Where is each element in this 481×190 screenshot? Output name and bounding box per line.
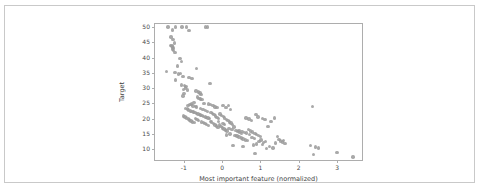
y-tick-mark bbox=[152, 103, 155, 104]
data-point bbox=[335, 151, 338, 154]
x-tick-label: -1 bbox=[181, 165, 187, 171]
y-tick-mark bbox=[152, 149, 155, 150]
y-tick-mark bbox=[152, 73, 155, 74]
y-tick-mark bbox=[152, 134, 155, 135]
y-tick-label: 45 bbox=[142, 39, 150, 45]
data-point bbox=[223, 123, 226, 126]
data-point bbox=[208, 82, 211, 85]
data-point bbox=[174, 25, 177, 28]
data-point bbox=[174, 78, 177, 81]
data-point bbox=[207, 124, 210, 127]
data-point bbox=[228, 132, 231, 135]
data-point bbox=[255, 142, 258, 145]
data-point bbox=[177, 72, 180, 75]
data-point bbox=[173, 51, 176, 54]
data-point bbox=[253, 137, 256, 140]
y-tick-label: 10 bbox=[142, 146, 150, 152]
data-point bbox=[190, 77, 193, 80]
figure-frame: 101520253035404550 -10123 Most important… bbox=[4, 5, 475, 183]
data-point bbox=[182, 88, 185, 91]
y-tick-label: 50 bbox=[142, 24, 150, 30]
data-point bbox=[206, 25, 209, 28]
y-tick-mark bbox=[152, 119, 155, 120]
data-point bbox=[166, 25, 169, 28]
data-point bbox=[277, 138, 280, 141]
data-point bbox=[180, 60, 183, 63]
data-point bbox=[171, 28, 174, 31]
x-tick-mark bbox=[299, 160, 300, 163]
data-point bbox=[253, 152, 256, 155]
scatter-plot-axes: 101520253035404550 -10123 bbox=[154, 23, 363, 161]
data-point bbox=[312, 153, 315, 156]
data-point bbox=[269, 120, 272, 123]
data-point bbox=[265, 147, 268, 150]
x-tick-mark bbox=[337, 160, 338, 163]
data-point bbox=[241, 145, 244, 148]
data-point bbox=[309, 144, 312, 147]
data-point bbox=[180, 25, 183, 28]
x-tick-mark bbox=[260, 160, 261, 163]
data-point bbox=[231, 144, 234, 147]
data-point bbox=[181, 94, 184, 97]
data-point bbox=[263, 118, 266, 121]
data-point bbox=[193, 121, 196, 124]
x-tick-label: 1 bbox=[258, 165, 262, 171]
data-point bbox=[273, 116, 276, 119]
data-point bbox=[215, 106, 218, 109]
data-point bbox=[246, 139, 249, 142]
y-tick-label: 30 bbox=[142, 85, 150, 91]
data-point bbox=[199, 93, 202, 96]
data-point bbox=[200, 98, 203, 101]
data-point bbox=[252, 143, 255, 146]
data-point bbox=[195, 105, 198, 108]
data-point bbox=[176, 64, 179, 67]
data-point bbox=[165, 70, 168, 73]
data-point bbox=[240, 132, 243, 135]
y-tick-label: 35 bbox=[142, 70, 150, 76]
data-point bbox=[256, 115, 259, 118]
x-tick-label: 2 bbox=[297, 165, 301, 171]
y-tick-label: 25 bbox=[142, 100, 150, 106]
data-point bbox=[351, 155, 354, 158]
data-point bbox=[250, 119, 253, 122]
y-tick-mark bbox=[152, 27, 155, 28]
data-point bbox=[202, 102, 205, 105]
data-point bbox=[261, 143, 264, 146]
scatter-plot-canvas bbox=[155, 24, 362, 160]
y-tick-mark bbox=[152, 88, 155, 89]
data-point bbox=[186, 88, 189, 91]
y-tick-label: 15 bbox=[142, 131, 150, 137]
y-tick-mark bbox=[152, 58, 155, 59]
data-point bbox=[311, 105, 314, 108]
data-point bbox=[187, 29, 190, 32]
y-axis-label: Target bbox=[119, 82, 126, 102]
data-point bbox=[227, 104, 230, 107]
data-point bbox=[274, 141, 277, 144]
x-tick-label: 3 bbox=[335, 165, 339, 171]
y-tick-mark bbox=[152, 42, 155, 43]
x-tick-mark bbox=[184, 160, 185, 163]
data-point bbox=[229, 108, 232, 111]
data-point bbox=[195, 67, 198, 70]
y-tick-label: 20 bbox=[142, 116, 150, 122]
x-tick-mark bbox=[222, 160, 223, 163]
data-point bbox=[317, 146, 320, 149]
data-point bbox=[271, 146, 274, 149]
x-axis-label: Most important feature (normalized) bbox=[154, 176, 363, 183]
y-tick-label: 40 bbox=[142, 55, 150, 61]
data-point bbox=[283, 142, 286, 145]
data-point bbox=[266, 125, 269, 128]
data-point bbox=[181, 75, 184, 78]
x-tick-label: 0 bbox=[220, 165, 224, 171]
data-point bbox=[264, 140, 267, 143]
